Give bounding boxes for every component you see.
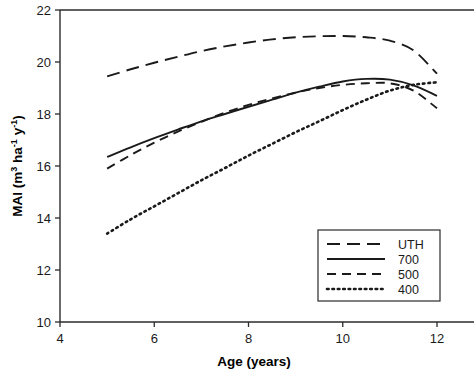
x-tick-label: 8 (245, 331, 252, 346)
y-axis-title-prefix: MAI (m (10, 172, 25, 217)
legend-label-700: 700 (398, 253, 419, 267)
y-tick-label: 20 (37, 55, 51, 70)
data-series-group (107, 36, 437, 234)
y-axis-title-mid1: ha (10, 147, 25, 167)
legend-label-uth: UTH (398, 238, 424, 252)
y-tick-label: 16 (37, 159, 51, 174)
x-tick-label: 12 (430, 331, 444, 346)
svg-text:MAI (m3 ha-1 y-1): MAI (m3 ha-1 y-1) (9, 115, 25, 216)
y-axis-title: MAI (m3 ha-1 y-1) (9, 115, 25, 216)
chart-canvas: 101214161820224681012 UTH700500400 Age (… (0, 0, 474, 377)
legend-label-400: 400 (398, 283, 419, 297)
chart-figure: 101214161820224681012 UTH700500400 Age (… (0, 0, 474, 377)
y-tick-label: 18 (37, 107, 51, 122)
x-tick-label: 4 (56, 331, 63, 346)
y-tick-label: 22 (37, 3, 51, 18)
y-axis-title-mid2: y (10, 127, 25, 139)
y-tick-label: 14 (37, 211, 51, 226)
y-axis-title-sup2: -1 (9, 139, 19, 147)
x-tick-label: 6 (151, 331, 158, 346)
y-tick-label: 12 (37, 263, 51, 278)
y-axis-title-sup3: -1 (9, 120, 19, 128)
series-line-400 (107, 82, 437, 233)
legend-label-500: 500 (398, 268, 419, 282)
y-axis-title-suffix: ) (10, 115, 25, 120)
series-line-500 (107, 83, 437, 169)
chart-legend: UTH700500400 (318, 230, 440, 301)
series-line-uth (107, 36, 437, 76)
x-tick-label: 10 (336, 331, 350, 346)
x-axis-title: Age (years) (217, 354, 291, 369)
y-tick-label: 10 (37, 315, 51, 330)
